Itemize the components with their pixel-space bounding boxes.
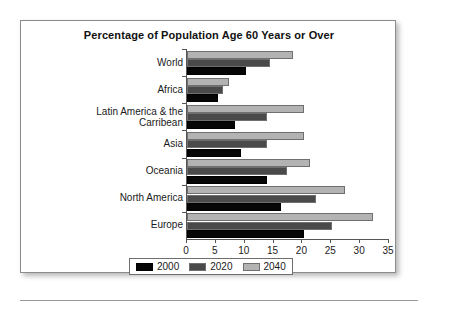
x-axis-tick <box>301 239 302 243</box>
category-label-line: Europe <box>151 219 183 230</box>
figure-card: Percentage of Population Age 60 Years or… <box>20 20 396 273</box>
bar-2040-world <box>187 51 293 59</box>
category-label: North America <box>120 192 183 203</box>
bar-2000-africa <box>187 94 218 102</box>
bar-2000-europe <box>187 230 304 238</box>
legend-label: 2000 <box>157 261 179 272</box>
bar-2020-asia <box>187 140 267 148</box>
category-label-line: Carribean <box>96 117 183 128</box>
y-axis-tick <box>182 212 186 213</box>
category-label: Oceania <box>146 165 183 176</box>
legend-label: 2020 <box>210 261 232 272</box>
category-label: Asia <box>164 138 183 149</box>
bar-2020-latin-america-the-carribean <box>187 113 267 121</box>
bar-2020-africa <box>187 86 223 94</box>
category-label-line: Asia <box>164 138 183 149</box>
chart-legend: 200020202040 <box>129 258 293 275</box>
legend-item-2020: 2020 <box>189 261 232 272</box>
x-axis-tick <box>186 239 187 243</box>
x-axis-tick <box>330 239 331 243</box>
plot-area: 05101520253035WorldAfricaLatin America &… <box>21 21 397 274</box>
x-axis-tick-label: 30 <box>347 245 371 256</box>
x-axis-tick <box>388 239 389 243</box>
bar-2040-europe <box>187 213 373 221</box>
bar-2020-europe <box>187 222 332 230</box>
x-axis-tick-label: 10 <box>232 245 256 256</box>
bar-2000-north-america <box>187 203 281 211</box>
category-label: Latin America & theCarribean <box>96 106 183 128</box>
bar-2000-asia <box>187 149 241 157</box>
bar-2040-asia <box>187 132 304 140</box>
x-axis-tick-label: 35 <box>376 245 400 256</box>
x-axis-tick-label: 15 <box>261 245 285 256</box>
category-label-line: World <box>157 57 183 68</box>
category-label-line: Oceania <box>146 165 183 176</box>
bar-2000-world <box>187 67 246 75</box>
category-label-line: North America <box>120 192 183 203</box>
bar-2040-latin-america-the-carribean <box>187 105 304 113</box>
legend-swatch-icon <box>136 263 153 271</box>
bar-2000-latin-america-the-carribean <box>187 121 235 129</box>
category-label: Africa <box>157 84 183 95</box>
y-axis-tick <box>182 185 186 186</box>
bar-2040-oceania <box>187 159 310 167</box>
page-divider <box>20 300 418 301</box>
legend-item-2040: 2040 <box>243 261 286 272</box>
legend-swatch-icon <box>189 263 206 271</box>
category-label: World <box>157 57 183 68</box>
y-axis-tick <box>182 130 186 131</box>
bar-2040-north-america <box>187 186 345 194</box>
category-label: Europe <box>151 219 183 230</box>
y-axis-tick <box>182 158 186 159</box>
bar-2040-africa <box>187 78 229 86</box>
category-label-line: Africa <box>157 84 183 95</box>
y-axis-tick <box>182 49 186 50</box>
page-root: Percentage of Population Age 60 Years or… <box>0 0 469 319</box>
x-axis-tick-label: 25 <box>318 245 342 256</box>
x-axis-tick-label: 0 <box>174 245 198 256</box>
legend-label: 2040 <box>264 261 286 272</box>
legend-swatch-icon <box>243 263 260 271</box>
x-axis-tick-label: 20 <box>289 245 313 256</box>
x-axis-tick <box>273 239 274 243</box>
x-axis-tick <box>244 239 245 243</box>
x-axis-tick-label: 5 <box>203 245 227 256</box>
bar-2020-world <box>187 59 270 67</box>
bar-2000-oceania <box>187 176 267 184</box>
bar-2020-oceania <box>187 167 287 175</box>
bar-2020-north-america <box>187 195 316 203</box>
y-axis-tick <box>182 76 186 77</box>
x-axis-tick <box>359 239 360 243</box>
category-label-line: Latin America & the <box>96 106 183 117</box>
x-axis-tick <box>215 239 216 243</box>
legend-item-2000: 2000 <box>136 261 179 272</box>
y-axis-tick <box>182 103 186 104</box>
